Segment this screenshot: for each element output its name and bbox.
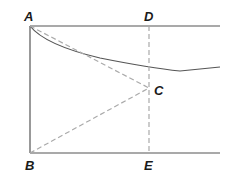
geometry-diagram: A D C B E bbox=[0, 0, 232, 183]
label-b: B bbox=[25, 158, 34, 173]
dashed-line-bc bbox=[30, 88, 149, 153]
curve-path bbox=[30, 26, 220, 71]
label-c: C bbox=[154, 83, 164, 98]
label-e: E bbox=[144, 158, 153, 173]
label-a: A bbox=[23, 9, 33, 24]
label-d: D bbox=[144, 9, 154, 24]
dashed-line-ac bbox=[30, 26, 149, 88]
